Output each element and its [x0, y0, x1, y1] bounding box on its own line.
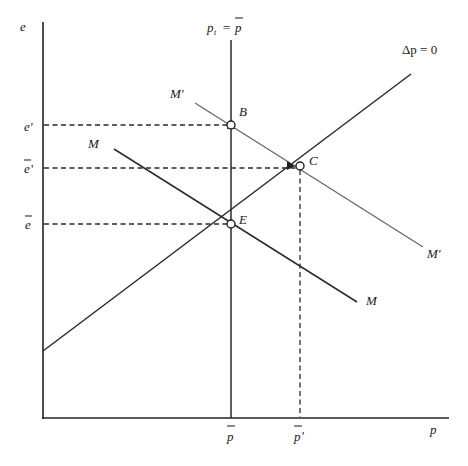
point-e — [227, 220, 235, 228]
point-c — [296, 162, 304, 170]
point-c-label: C — [309, 153, 318, 168]
m-label-right: M — [365, 293, 378, 308]
svg-text:t: t — [214, 28, 217, 37]
svg-text:p: p — [234, 20, 242, 35]
svg-text:e: e — [25, 217, 31, 232]
delta-p-zero-line — [43, 74, 411, 351]
pbar-prime-label: p ' — [293, 426, 304, 444]
delta-p-zero-label: Δp = 0 — [402, 42, 437, 57]
point-b — [227, 121, 235, 129]
svg-text:': ' — [31, 161, 33, 176]
m-label-left: M — [87, 136, 100, 151]
svg-text:=: = — [223, 20, 230, 35]
svg-text:': ' — [302, 428, 304, 443]
e-prime-label: e' — [24, 119, 33, 134]
ebar-label: e — [25, 216, 32, 232]
p-axis-label: p — [429, 422, 437, 437]
pt-equals-pbar-label: p t = p — [206, 18, 243, 37]
phase-diagram: e p e' e ' e p p ' p t = p Δp = 0 M M M'… — [0, 0, 468, 466]
svg-text:p: p — [293, 429, 301, 444]
ebar-prime-label: e ' — [24, 160, 33, 176]
point-b-label: B — [239, 104, 247, 119]
point-e-label: E — [238, 212, 247, 227]
m-prime-label-right: M' — [426, 246, 441, 261]
pbar-label: p — [226, 426, 235, 444]
svg-text:e: e — [24, 161, 30, 176]
e-axis-label: e — [20, 19, 26, 34]
m-prime-label-left: M' — [169, 86, 184, 101]
svg-text:p: p — [206, 20, 214, 35]
svg-text:p: p — [226, 429, 234, 444]
m-line — [114, 149, 357, 302]
